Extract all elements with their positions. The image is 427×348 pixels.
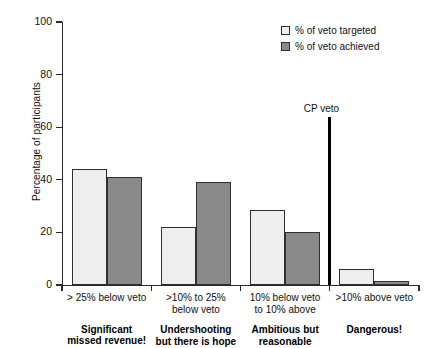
y-axis-line bbox=[62, 22, 63, 286]
category-range-3: >10% above veto bbox=[330, 292, 419, 304]
bar-achieved-2 bbox=[285, 232, 320, 285]
legend-swatch-targeted bbox=[281, 26, 290, 35]
category-range-line: >10% to 25% bbox=[151, 292, 240, 304]
chart-legend: % of veto targeted% of veto achieved bbox=[281, 24, 380, 56]
category-verdict-line: Significant bbox=[62, 324, 151, 336]
category-verdict-line: reasonable bbox=[241, 336, 330, 348]
x-tick-0 bbox=[61, 285, 62, 291]
y-tick-100 bbox=[56, 21, 62, 22]
category-group-2: 10% below vetoto 10% aboveAmbitious butr… bbox=[241, 292, 330, 347]
bar-targeted-2 bbox=[250, 210, 285, 285]
category-range-line: >10% above veto bbox=[330, 292, 419, 304]
category-verdict-2: Ambitious butreasonable bbox=[241, 324, 330, 347]
legend-item-0: % of veto targeted bbox=[281, 24, 380, 36]
category-verdict-line: Dangerous! bbox=[330, 324, 419, 336]
legend-label-1: % of veto achieved bbox=[295, 41, 380, 52]
x-tick-2 bbox=[240, 285, 241, 291]
category-verdict-line: Undershooting bbox=[151, 324, 240, 336]
category-group-0: > 25% below vetoSignificantmissed revenu… bbox=[62, 292, 151, 347]
y-axis-title: Percentage of participants bbox=[31, 32, 42, 252]
x-tick-3 bbox=[329, 285, 330, 291]
y-tick-80 bbox=[56, 74, 62, 75]
category-group-1: >10% to 25%below vetoUndershootingbut th… bbox=[151, 292, 240, 347]
category-range-line: > 25% below veto bbox=[62, 292, 151, 304]
bar-achieved-3 bbox=[374, 281, 409, 285]
y-tick-20 bbox=[56, 232, 62, 233]
x-tick-4 bbox=[418, 285, 419, 291]
category-range-1: >10% to 25%below veto bbox=[151, 292, 240, 315]
y-tick-60 bbox=[56, 127, 62, 128]
category-range-line: below veto bbox=[151, 304, 240, 316]
category-verdict-1: Undershootingbut there is hope bbox=[151, 324, 240, 347]
y-tick-label-80: 80 bbox=[6, 68, 52, 80]
y-tick-label-0: 0 bbox=[6, 278, 52, 290]
bar-achieved-0 bbox=[107, 177, 142, 285]
bar-targeted-3 bbox=[339, 269, 374, 285]
bar-targeted-0 bbox=[72, 169, 107, 285]
category-range-0: > 25% below veto bbox=[62, 292, 151, 304]
cp-veto-line bbox=[328, 117, 331, 285]
y-tick-label-60: 60 bbox=[6, 120, 52, 132]
bar-chart-figure: Percentage of participants 020406080100 … bbox=[0, 0, 427, 348]
bar-achieved-1 bbox=[196, 182, 231, 285]
y-tick-40 bbox=[56, 179, 62, 180]
category-group-3: >10% above vetoDangerous! bbox=[330, 292, 419, 335]
category-range-line: 10% below veto bbox=[241, 292, 330, 304]
cp-veto-label: CP veto bbox=[304, 103, 339, 114]
x-tick-1 bbox=[151, 285, 152, 291]
category-verdict-3: Dangerous! bbox=[330, 324, 419, 336]
category-range-line: to 10% above bbox=[241, 304, 330, 316]
category-verdict-0: Significantmissed revenue! bbox=[62, 324, 151, 347]
category-verdict-line: Ambitious but bbox=[241, 324, 330, 336]
category-verdict-line: missed revenue! bbox=[62, 335, 151, 347]
y-tick-label-100: 100 bbox=[6, 15, 52, 27]
y-tick-label-40: 40 bbox=[6, 173, 52, 185]
bar-targeted-1 bbox=[161, 227, 196, 285]
legend-swatch-achieved bbox=[281, 42, 290, 51]
legend-item-1: % of veto achieved bbox=[281, 40, 380, 52]
category-range-2: 10% below vetoto 10% above bbox=[241, 292, 330, 315]
legend-label-0: % of veto targeted bbox=[295, 25, 376, 36]
category-verdict-line: but there is hope bbox=[151, 336, 240, 348]
y-tick-label-20: 20 bbox=[6, 225, 52, 237]
